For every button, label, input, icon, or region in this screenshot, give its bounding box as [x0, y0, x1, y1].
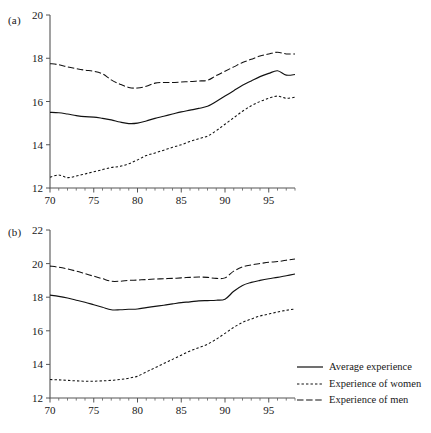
y-tick-label: 12: [32, 392, 43, 404]
x-tick-label: 85: [176, 194, 188, 206]
chart-legend: Average experience Experience of women E…: [297, 360, 431, 410]
x-tick-label: 85: [176, 404, 188, 416]
y-tick-label: 20: [32, 258, 44, 270]
legend-item-men: Experience of men: [297, 393, 431, 407]
x-tick-label: 90: [220, 404, 232, 416]
legend-item-average: Average experience: [297, 360, 431, 374]
panel-a-plot: 1214161820707580859095: [0, 0, 431, 212]
x-tick-label: 70: [45, 404, 57, 416]
y-tick-label: 18: [32, 52, 44, 64]
series-line-women: [50, 96, 295, 178]
x-tick-label: 95: [263, 404, 275, 416]
legend-label-women: Experience of women: [329, 378, 421, 390]
y-tick-label: 14: [32, 358, 44, 370]
series-line-men: [50, 52, 295, 88]
y-tick-label: 20: [32, 9, 44, 21]
series-line-average: [50, 71, 295, 124]
series-line-average: [50, 274, 295, 310]
x-tick-label: 75: [88, 194, 100, 206]
series-line-men: [50, 259, 295, 282]
x-tick-label: 80: [132, 194, 144, 206]
x-tick-label: 70: [45, 194, 57, 206]
series-line-women: [50, 309, 295, 381]
x-tick-label: 95: [263, 194, 275, 206]
solid-line-icon: [297, 362, 323, 372]
y-tick-label: 16: [32, 96, 44, 108]
dotted-line-icon: [297, 379, 323, 389]
x-tick-label: 75: [88, 404, 100, 416]
y-tick-label: 14: [32, 139, 44, 151]
legend-label-men: Experience of men: [329, 394, 408, 406]
legend-label-average: Average experience: [329, 361, 412, 373]
x-tick-label: 90: [220, 194, 232, 206]
legend-item-women: Experience of women: [297, 377, 431, 391]
dashed-line-icon: [297, 395, 323, 405]
y-tick-label: 18: [32, 291, 44, 303]
y-tick-label: 16: [32, 325, 44, 337]
y-tick-label: 12: [32, 182, 43, 194]
chart-panel-a: (a) 1214161820707580859095: [0, 0, 431, 212]
x-tick-label: 80: [132, 404, 144, 416]
y-tick-label: 22: [32, 224, 43, 236]
